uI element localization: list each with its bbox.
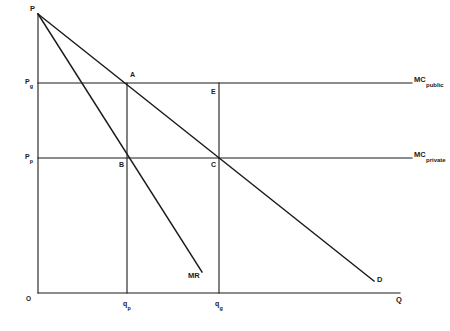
- mc-public-label-base: MC: [414, 75, 426, 84]
- mc-private-label: MCprivate: [414, 151, 445, 161]
- quantity-tick-qg: qg: [215, 300, 223, 310]
- demand-curve-label: D: [377, 276, 382, 284]
- x-axis-label: Q: [396, 296, 402, 304]
- price-tick-pp: Pp: [25, 153, 33, 163]
- mc-private-label-sub: private: [426, 157, 446, 163]
- quantity-tick-qg-sub: g: [219, 305, 222, 311]
- demand-curve: [38, 14, 374, 281]
- price-tick-pg-base: P: [25, 78, 30, 85]
- mc-public-label: MCpublic: [414, 76, 443, 86]
- point-b-label: B: [119, 161, 124, 168]
- price-tick-pp-sub: p: [30, 158, 33, 164]
- mc-public-label-sub: public: [426, 82, 444, 88]
- price-tick-pg-sub: g: [30, 83, 33, 89]
- mc-private-label-base: MC: [414, 150, 426, 159]
- economics-plot: [0, 0, 450, 331]
- diagram-canvas: P Q O Pg Pp qp qg MCpublic MCprivate D M…: [0, 0, 450, 331]
- marginal-revenue-curve-label: MR: [188, 272, 200, 280]
- origin-label: O: [26, 296, 31, 303]
- quantity-tick-qp: qp: [123, 300, 131, 310]
- marginal-revenue-curve: [38, 14, 202, 272]
- price-tick-pp-base: P: [25, 153, 30, 160]
- point-a-label: A: [130, 71, 135, 78]
- point-e-label: E: [211, 88, 216, 95]
- y-axis-label: P: [30, 5, 35, 13]
- price-tick-pg: Pg: [25, 78, 33, 88]
- quantity-tick-qp-sub: p: [127, 305, 130, 311]
- point-c-label: C: [211, 161, 216, 168]
